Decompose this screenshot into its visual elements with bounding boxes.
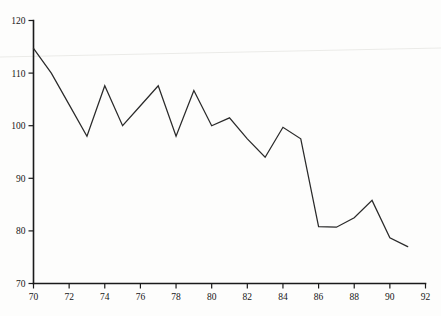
y-tick-label: 120 — [11, 16, 26, 26]
x-tick-label: 92 — [421, 292, 431, 302]
x-tick-label: 72 — [64, 292, 74, 302]
scan-artifact-group — [0, 48, 441, 57]
line-chart-canvas: 708090100110120 707274767880828486889092 — [0, 0, 441, 316]
x-tick-label: 80 — [207, 292, 217, 302]
chart-axes — [34, 21, 426, 284]
x-tick-label: 86 — [314, 292, 324, 302]
x-tick-label: 74 — [100, 292, 110, 302]
x-tick-label: 82 — [243, 292, 253, 302]
y-tick-label: 100 — [11, 121, 26, 131]
y-tick-label: 80 — [16, 226, 26, 236]
paper-crease-artifact — [0, 48, 441, 57]
y-tick-label: 110 — [12, 69, 26, 79]
x-tick-label: 70 — [29, 292, 39, 302]
y-tick-label: 90 — [16, 174, 26, 184]
x-tick-label: 84 — [278, 292, 288, 302]
x-tick-label: 78 — [171, 292, 181, 302]
y-tick-label: 70 — [16, 279, 26, 289]
data-series-group — [34, 48, 408, 246]
x-tick-label: 88 — [349, 292, 359, 302]
x-axis-tick-labels: 707274767880828486889092 — [29, 292, 431, 302]
x-tick-label: 76 — [136, 292, 146, 302]
x-tick-label: 90 — [385, 292, 395, 302]
chart-figure: 708090100110120 707274767880828486889092 — [0, 0, 441, 316]
data-line-1 — [34, 48, 408, 246]
